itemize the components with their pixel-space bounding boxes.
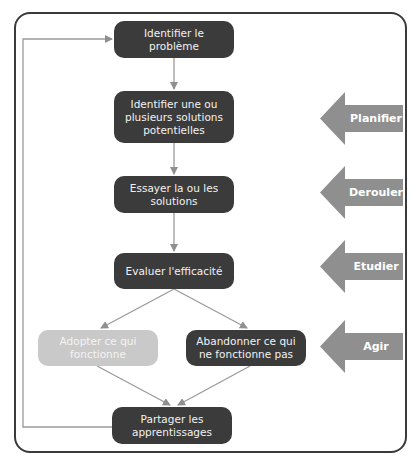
phase-arrow-planifier: Planifier — [320, 92, 403, 145]
phase-label: Etudier — [345, 240, 403, 293]
step-label: Identifier le problème — [118, 27, 230, 53]
phase-label: Planifier — [345, 92, 403, 145]
step-label: Partager les apprentissages — [116, 413, 228, 439]
phase-label: Agir — [345, 320, 403, 373]
step-abandon: Abandonner ce qui ne fonctionne pas — [186, 330, 306, 366]
step-evaluate: Evaluer l'efficacité — [114, 253, 234, 289]
step-adopt: Adopter ce qui fonctionne — [38, 330, 158, 366]
phase-arrow-derouler: Derouler — [320, 166, 403, 219]
step-try-solutions: Essayer la ou les solutions — [114, 176, 234, 213]
step-identify-solutions: Identifier une ou plusieurs solutions po… — [114, 91, 234, 143]
connectors — [0, 0, 418, 464]
step-label: Essayer la ou les solutions — [118, 182, 230, 208]
step-identify-problem: Identifier le problème — [114, 21, 234, 58]
step-label: Identifier une ou plusieurs solutions po… — [118, 98, 230, 137]
step-label: Evaluer l'efficacité — [126, 265, 223, 278]
step-share: Partager les apprentissages — [112, 407, 232, 444]
step-label: Abandonner ce qui ne fonctionne pas — [190, 335, 302, 361]
phase-arrow-etudier: Etudier — [320, 240, 403, 293]
phase-label: Derouler — [345, 166, 403, 219]
step-label: Adopter ce qui fonctionne — [42, 335, 154, 361]
phase-arrow-agir: Agir — [320, 320, 403, 373]
